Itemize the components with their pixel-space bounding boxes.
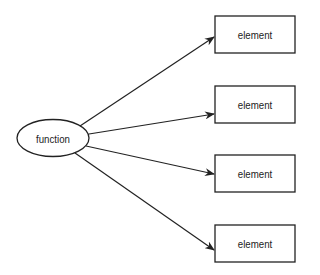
element-label-4: element [220, 225, 290, 262]
element-label-1: element [220, 16, 290, 53]
arrow-3 [86, 146, 214, 174]
function-label: function [21, 120, 84, 157]
arrow-1 [80, 37, 214, 126]
element-label-3: element [220, 155, 290, 192]
element-label-2: element [220, 86, 290, 123]
arrow-2 [89, 114, 214, 134]
arrow-4 [75, 153, 214, 250]
